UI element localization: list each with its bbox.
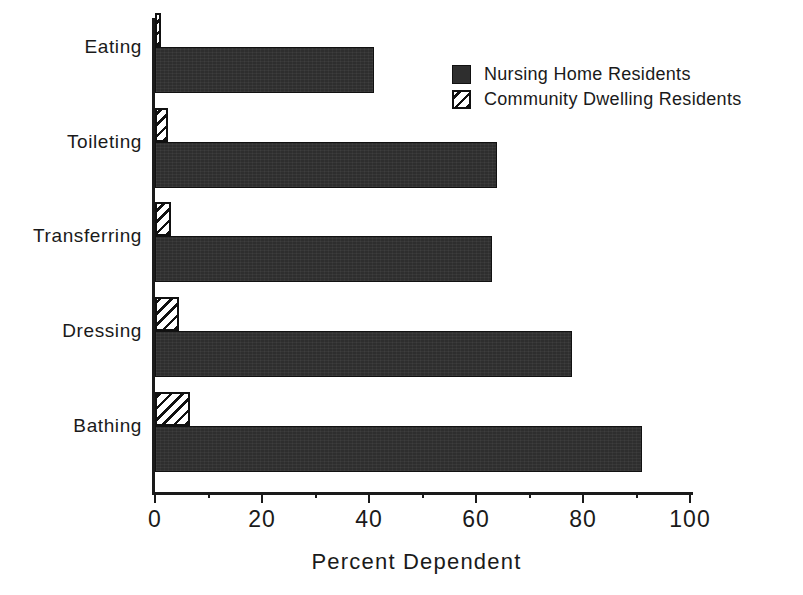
x-tick-20 — [261, 492, 263, 503]
bar-community-dwelling-eating — [155, 13, 161, 47]
chart-legend: Nursing Home ResidentsCommunity Dwelling… — [452, 63, 782, 113]
hatched-fill-swatch — [452, 90, 471, 109]
bar-community-dwelling-dressing — [155, 297, 179, 331]
x-minor-tick-10 — [208, 492, 210, 498]
bar-nursing-home-eating — [155, 47, 374, 93]
x-axis-title: Percent Dependent — [0, 549, 803, 575]
bar-community-dwelling-transferring — [155, 202, 171, 236]
x-minor-tick-50 — [422, 492, 424, 498]
x-minor-tick-90 — [636, 492, 638, 498]
bar-community-dwelling-toileting — [155, 108, 168, 142]
bar-nursing-home-transferring — [155, 236, 492, 282]
x-minor-tick-70 — [529, 492, 531, 498]
x-tick-80 — [582, 492, 584, 503]
x-tick-60 — [475, 492, 477, 503]
x-tick-label-0: 0 — [148, 506, 162, 533]
legend-entry: Nursing Home Residents — [452, 63, 782, 86]
legend-label: Nursing Home Residents — [484, 64, 691, 85]
category-axis-labels: EatingToiletingTransferringDressingBathi… — [0, 0, 142, 595]
x-tick-label-20: 20 — [248, 506, 276, 533]
category-label-transferring: Transferring — [0, 225, 142, 247]
category-label-dressing: Dressing — [0, 320, 142, 342]
category-label-bathing: Bathing — [0, 415, 142, 437]
chart-figure: EatingToiletingTransferringDressingBathi… — [0, 0, 803, 595]
x-tick-label-40: 40 — [355, 506, 383, 533]
x-tick-label-80: 80 — [569, 506, 597, 533]
x-tick-0 — [154, 492, 156, 503]
legend-entry: Community Dwelling Residents — [452, 88, 782, 111]
x-minor-tick-30 — [315, 492, 317, 498]
legend-label: Community Dwelling Residents — [484, 89, 742, 110]
x-tick-100 — [689, 492, 691, 503]
bar-community-dwelling-bathing — [155, 392, 190, 426]
bar-nursing-home-dressing — [155, 331, 572, 377]
solid-fill-swatch — [452, 65, 471, 84]
x-tick-40 — [368, 492, 370, 503]
x-axis-title-text: Percent Dependent — [282, 549, 522, 574]
category-label-toileting: Toileting — [0, 131, 142, 153]
x-tick-label-60: 60 — [462, 506, 490, 533]
bar-nursing-home-bathing — [155, 426, 642, 472]
x-tick-label-100: 100 — [669, 506, 710, 533]
bar-nursing-home-toileting — [155, 142, 497, 188]
category-label-eating: Eating — [0, 36, 142, 58]
